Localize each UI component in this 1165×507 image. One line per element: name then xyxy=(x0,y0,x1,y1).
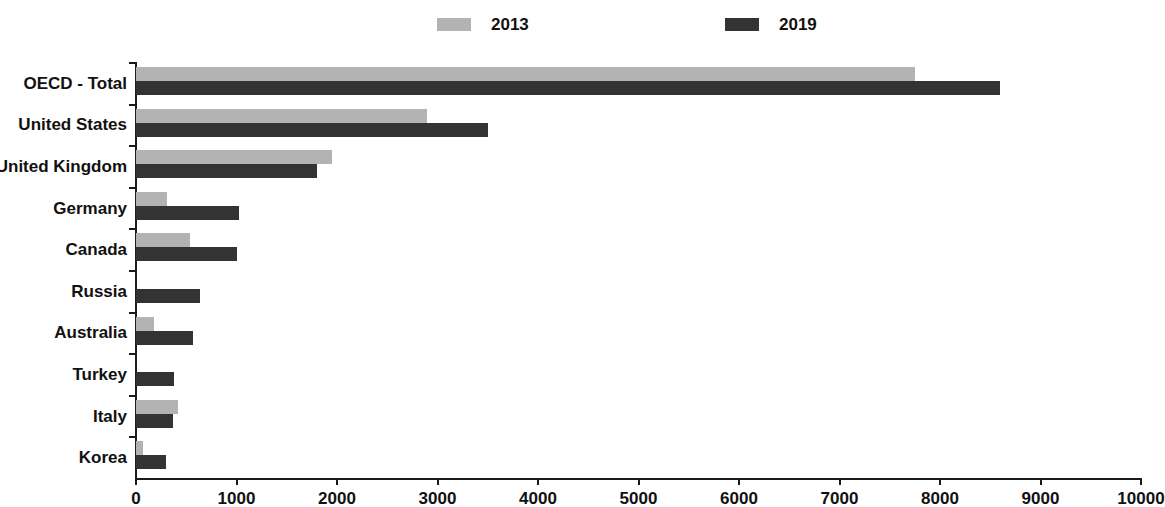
legend-item-2019: 2019 xyxy=(725,12,817,36)
y-axis-tick xyxy=(129,270,136,272)
bar-2019 xyxy=(136,81,1000,95)
x-axis-tick xyxy=(236,479,238,485)
x-axis-tick xyxy=(638,479,640,485)
bar-2013 xyxy=(136,192,167,206)
y-axis-category-label: Australia xyxy=(54,324,127,341)
bar-2019 xyxy=(136,455,166,469)
chart-legend: 2013 2019 xyxy=(0,8,1146,44)
y-axis-category-label: Russia xyxy=(71,283,127,300)
bar-group: Australia xyxy=(136,312,1141,354)
y-axis-tick xyxy=(129,104,136,106)
x-axis-tick-label: 8000 xyxy=(921,489,959,507)
legend-label-2013: 2013 xyxy=(491,16,529,33)
x-axis-tick xyxy=(738,479,740,485)
bar-2013 xyxy=(136,150,332,164)
plot-area: 0100020003000400050006000700080009000100… xyxy=(136,62,1141,478)
y-axis-category-label: United Kingdom xyxy=(0,158,127,175)
y-axis-category-label: Canada xyxy=(66,241,127,258)
y-axis-category-label: Turkey xyxy=(73,366,128,383)
bar-group: Korea xyxy=(136,436,1141,478)
x-axis-tick xyxy=(537,479,539,485)
bar-2019 xyxy=(136,414,173,428)
y-axis-tick xyxy=(129,312,136,314)
x-axis-tick-label: 1000 xyxy=(218,489,256,507)
y-axis-category-label: Italy xyxy=(93,408,127,425)
x-axis-tick-label: 3000 xyxy=(419,489,457,507)
bar-2019 xyxy=(136,331,193,345)
y-axis-tick xyxy=(129,145,136,147)
x-axis-tick xyxy=(1140,479,1142,485)
bar-group: Turkey xyxy=(136,353,1141,395)
bar-2013 xyxy=(136,317,154,331)
y-axis-category-label: Korea xyxy=(79,449,127,466)
bar-group: Italy xyxy=(136,395,1141,437)
bar-group: Russia xyxy=(136,270,1141,312)
y-axis-tick xyxy=(129,228,136,230)
bar-group: OECD - Total xyxy=(136,62,1141,104)
legend-swatch-2013 xyxy=(437,18,471,31)
bar-2013 xyxy=(136,67,915,81)
x-axis-tick xyxy=(1040,479,1042,485)
legend-item-2013: 2013 xyxy=(437,12,529,36)
y-axis-category-label: United States xyxy=(18,116,127,133)
bar-2019 xyxy=(136,206,239,220)
legend-label-2019: 2019 xyxy=(779,16,817,33)
y-axis-category-label: OECD - Total xyxy=(23,75,127,92)
bar-2019 xyxy=(136,289,200,303)
bar-2013 xyxy=(136,109,427,123)
x-axis-tick-label: 6000 xyxy=(720,489,758,507)
y-axis-tick xyxy=(129,395,136,397)
x-axis-tick-label: 9000 xyxy=(1022,489,1060,507)
x-axis-tick-label: 4000 xyxy=(519,489,557,507)
bar-2013 xyxy=(136,400,178,414)
legend-swatch-2019 xyxy=(725,18,759,31)
x-axis-tick-label: 0 xyxy=(131,489,140,507)
x-axis-tick xyxy=(939,479,941,485)
x-axis-tick-label: 7000 xyxy=(821,489,859,507)
y-axis-tick xyxy=(129,436,136,438)
bar-2019 xyxy=(136,123,488,137)
x-axis-tick xyxy=(839,479,841,485)
x-axis-tick-label: 5000 xyxy=(620,489,658,507)
x-axis-tick-label: 10000 xyxy=(1117,489,1164,507)
x-axis-tick xyxy=(135,479,137,485)
bar-group: United States xyxy=(136,104,1141,146)
bar-group: United Kingdom xyxy=(136,145,1141,187)
bar-2019 xyxy=(136,372,174,386)
bar-2013 xyxy=(136,441,143,455)
bar-2019 xyxy=(136,247,237,261)
y-axis-tick xyxy=(129,187,136,189)
y-axis-tick xyxy=(129,353,136,355)
y-axis-tick xyxy=(129,62,136,64)
y-axis-category-label: Germany xyxy=(53,200,127,217)
x-axis-tick xyxy=(437,479,439,485)
x-axis-tick-label: 2000 xyxy=(318,489,356,507)
bar-group: Germany xyxy=(136,187,1141,229)
bar-2013 xyxy=(136,233,190,247)
bar-2019 xyxy=(136,164,317,178)
x-axis-tick xyxy=(336,479,338,485)
bar-group: Canada xyxy=(136,228,1141,270)
